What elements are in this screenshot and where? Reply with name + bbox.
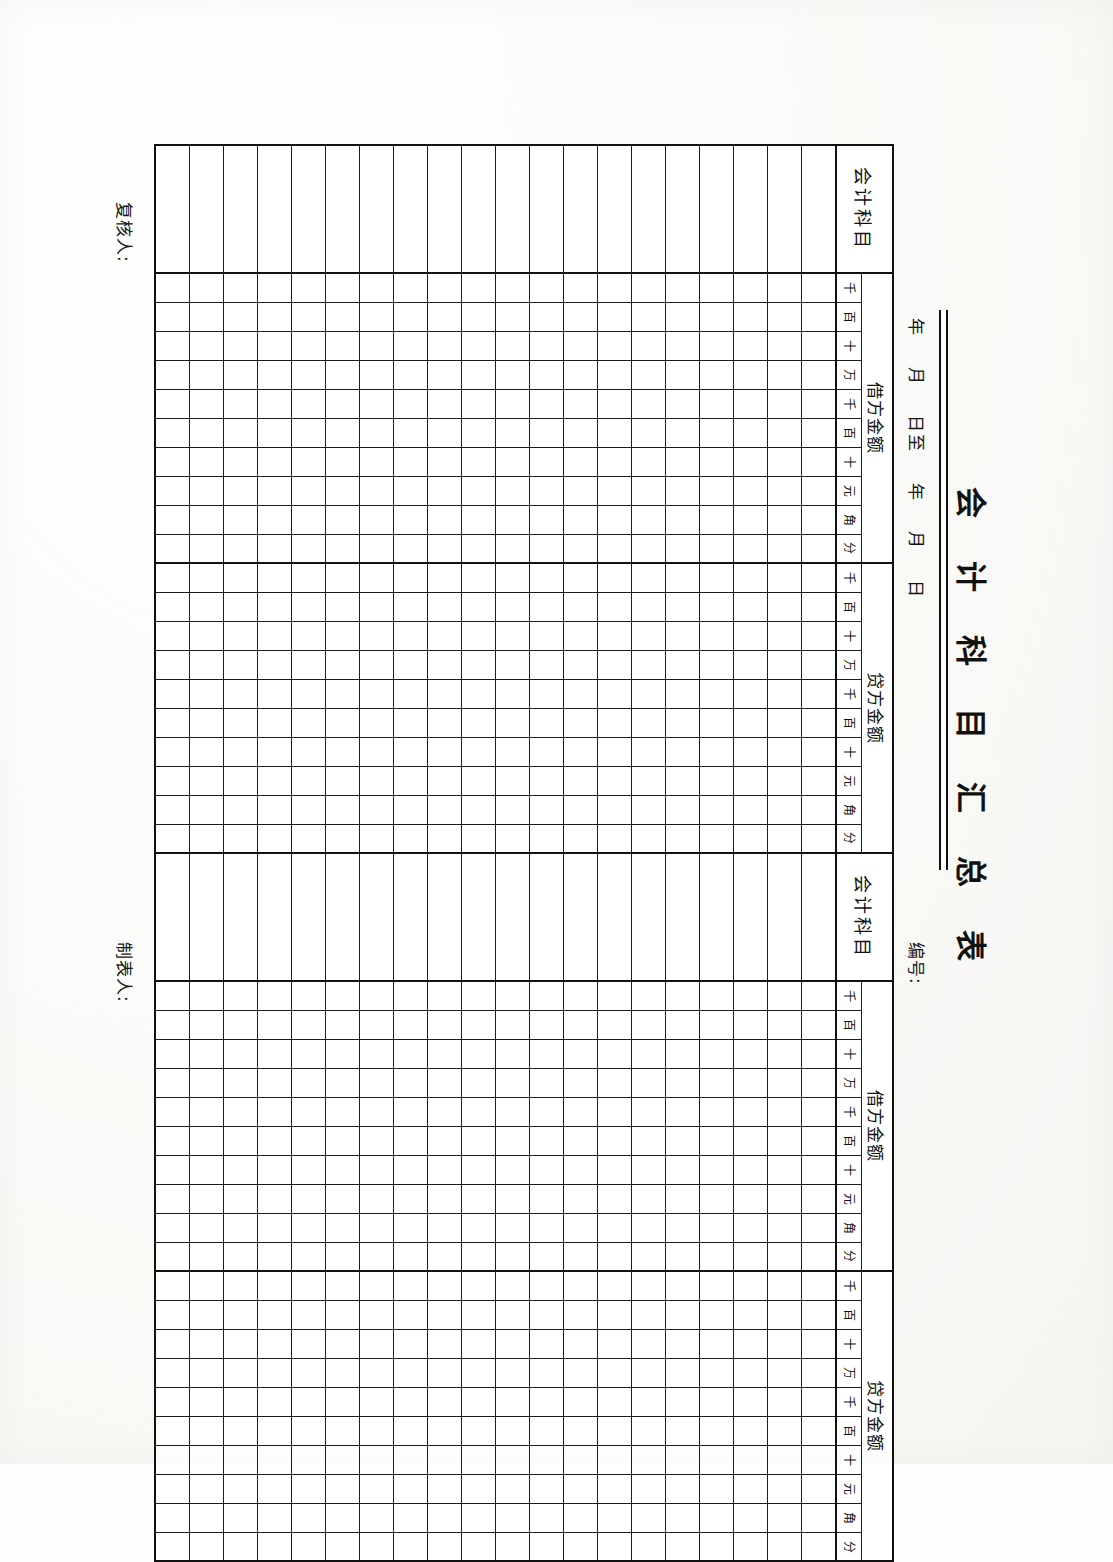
subject-cell[interactable] xyxy=(257,145,291,273)
amount-digit-cell[interactable] xyxy=(699,447,733,476)
subject-cell[interactable] xyxy=(495,853,529,981)
amount-digit-cell[interactable] xyxy=(189,1358,223,1387)
amount-digit-cell[interactable] xyxy=(597,1329,631,1358)
amount-digit-cell[interactable] xyxy=(529,1416,563,1445)
amount-digit-cell[interactable] xyxy=(461,650,495,679)
amount-digit-cell[interactable] xyxy=(801,302,836,331)
amount-digit-cell[interactable] xyxy=(801,447,836,476)
amount-digit-cell[interactable] xyxy=(495,1213,529,1242)
amount-digit-cell[interactable] xyxy=(359,1271,393,1300)
amount-digit-cell[interactable] xyxy=(359,592,393,621)
amount-digit-cell[interactable] xyxy=(699,1155,733,1184)
amount-digit-cell[interactable] xyxy=(767,1532,801,1561)
amount-digit-cell[interactable] xyxy=(359,1503,393,1532)
amount-digit-cell[interactable] xyxy=(563,1329,597,1358)
amount-digit-cell[interactable] xyxy=(529,824,563,853)
amount-digit-cell[interactable] xyxy=(563,981,597,1010)
amount-digit-cell[interactable] xyxy=(257,273,291,302)
amount-digit-cell[interactable] xyxy=(563,389,597,418)
amount-digit-cell[interactable] xyxy=(597,1445,631,1474)
amount-digit-cell[interactable] xyxy=(529,1503,563,1532)
amount-digit-cell[interactable] xyxy=(563,563,597,592)
amount-digit-cell[interactable] xyxy=(223,1300,257,1329)
amount-digit-cell[interactable] xyxy=(223,1329,257,1358)
amount-digit-cell[interactable] xyxy=(699,1242,733,1271)
amount-digit-cell[interactable] xyxy=(291,708,325,737)
amount-digit-cell[interactable] xyxy=(359,1242,393,1271)
amount-digit-cell[interactable] xyxy=(291,1474,325,1503)
amount-digit-cell[interactable] xyxy=(699,476,733,505)
amount-digit-cell[interactable] xyxy=(597,1126,631,1155)
amount-digit-cell[interactable] xyxy=(325,331,359,360)
amount-digit-cell[interactable] xyxy=(597,1503,631,1532)
amount-digit-cell[interactable] xyxy=(801,331,836,360)
amount-digit-cell[interactable] xyxy=(291,1039,325,1068)
amount-digit-cell[interactable] xyxy=(767,1010,801,1039)
amount-digit-cell[interactable] xyxy=(461,418,495,447)
subject-cell[interactable] xyxy=(597,145,631,273)
amount-digit-cell[interactable] xyxy=(597,418,631,447)
amount-digit-cell[interactable] xyxy=(223,1126,257,1155)
amount-digit-cell[interactable] xyxy=(665,505,699,534)
amount-digit-cell[interactable] xyxy=(699,766,733,795)
amount-digit-cell[interactable] xyxy=(155,1097,190,1126)
amount-digit-cell[interactable] xyxy=(597,650,631,679)
amount-digit-cell[interactable] xyxy=(597,1532,631,1561)
amount-digit-cell[interactable] xyxy=(699,273,733,302)
amount-digit-cell[interactable] xyxy=(359,981,393,1010)
amount-digit-cell[interactable] xyxy=(325,447,359,476)
amount-digit-cell[interactable] xyxy=(461,476,495,505)
amount-digit-cell[interactable] xyxy=(223,737,257,766)
amount-digit-cell[interactable] xyxy=(393,766,427,795)
amount-digit-cell[interactable] xyxy=(393,621,427,650)
subject-cell[interactable] xyxy=(699,145,733,273)
amount-digit-cell[interactable] xyxy=(699,1068,733,1097)
subject-cell[interactable] xyxy=(189,145,223,273)
subject-cell[interactable] xyxy=(393,145,427,273)
amount-digit-cell[interactable] xyxy=(631,1532,665,1561)
amount-digit-cell[interactable] xyxy=(189,650,223,679)
amount-digit-cell[interactable] xyxy=(529,389,563,418)
amount-digit-cell[interactable] xyxy=(291,273,325,302)
amount-digit-cell[interactable] xyxy=(359,1416,393,1445)
amount-digit-cell[interactable] xyxy=(257,331,291,360)
amount-digit-cell[interactable] xyxy=(733,273,767,302)
amount-digit-cell[interactable] xyxy=(631,824,665,853)
amount-digit-cell[interactable] xyxy=(699,1010,733,1039)
amount-digit-cell[interactable] xyxy=(223,679,257,708)
amount-digit-cell[interactable] xyxy=(597,273,631,302)
amount-digit-cell[interactable] xyxy=(767,563,801,592)
subject-cell[interactable] xyxy=(291,853,325,981)
amount-digit-cell[interactable] xyxy=(733,592,767,621)
amount-digit-cell[interactable] xyxy=(733,621,767,650)
amount-digit-cell[interactable] xyxy=(699,1213,733,1242)
subject-cell[interactable] xyxy=(495,145,529,273)
amount-digit-cell[interactable] xyxy=(699,592,733,621)
amount-digit-cell[interactable] xyxy=(155,1213,190,1242)
amount-digit-cell[interactable] xyxy=(427,1300,461,1329)
amount-digit-cell[interactable] xyxy=(529,505,563,534)
amount-digit-cell[interactable] xyxy=(223,273,257,302)
amount-digit-cell[interactable] xyxy=(189,505,223,534)
amount-digit-cell[interactable] xyxy=(223,1242,257,1271)
amount-digit-cell[interactable] xyxy=(427,447,461,476)
amount-digit-cell[interactable] xyxy=(257,1155,291,1184)
amount-digit-cell[interactable] xyxy=(699,1329,733,1358)
subject-cell[interactable] xyxy=(529,145,563,273)
amount-digit-cell[interactable] xyxy=(597,795,631,824)
amount-digit-cell[interactable] xyxy=(597,1387,631,1416)
amount-digit-cell[interactable] xyxy=(325,1068,359,1097)
amount-digit-cell[interactable] xyxy=(631,1416,665,1445)
subject-cell[interactable] xyxy=(563,853,597,981)
amount-digit-cell[interactable] xyxy=(495,795,529,824)
amount-digit-cell[interactable] xyxy=(257,1503,291,1532)
amount-digit-cell[interactable] xyxy=(257,1213,291,1242)
amount-digit-cell[interactable] xyxy=(631,1300,665,1329)
amount-digit-cell[interactable] xyxy=(325,795,359,824)
amount-digit-cell[interactable] xyxy=(359,737,393,766)
amount-digit-cell[interactable] xyxy=(495,1155,529,1184)
amount-digit-cell[interactable] xyxy=(325,650,359,679)
amount-digit-cell[interactable] xyxy=(291,505,325,534)
amount-digit-cell[interactable] xyxy=(359,1387,393,1416)
amount-digit-cell[interactable] xyxy=(189,1329,223,1358)
